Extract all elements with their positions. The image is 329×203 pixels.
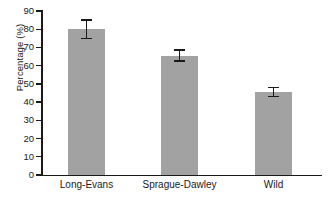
y-axis-tick [36,10,41,11]
y-axis-tick-label: 20 [23,134,34,144]
bar-long-evans [68,29,105,175]
y-axis-tick [36,138,41,139]
y-axis-tick [36,156,41,157]
x-axis-tick-label: Wild [214,180,329,190]
y-axis-tick [36,174,41,175]
error-bar-cap-lower [174,60,185,62]
y-axis-tick [36,83,41,84]
error-bar-cap-upper [268,87,279,89]
y-axis-tick [36,65,41,66]
y-axis-tick [36,47,41,48]
y-axis-tick-label: 90 [23,6,34,16]
y-axis-tick [36,29,41,30]
error-bar-cap-lower [81,38,92,40]
y-axis-tick-label: 30 [23,115,34,125]
bar-chart-figure: Percentage (%) 0102030405060708090 Long-… [0,0,329,203]
y-axis-tick-label: 60 [23,61,34,71]
bar-sprague-dawley [161,56,198,175]
error-bar-stem [86,20,88,38]
error-bar-cap-upper [81,19,92,21]
y-axis-tick [36,120,41,121]
y-axis-tick-label: 80 [23,24,34,34]
y-axis-tick-label: 10 [23,152,34,162]
y-axis-tick-label: 70 [23,42,34,52]
bar-wild [255,92,292,175]
error-bar-cap-upper [174,49,185,51]
y-axis-line [41,10,43,176]
y-axis-tick [36,101,41,102]
y-axis-tick-label: 40 [23,97,34,107]
y-axis-tick-label: 50 [23,79,34,89]
error-bar-cap-lower [268,96,279,98]
y-axis-tick-label: 0 [29,170,34,180]
